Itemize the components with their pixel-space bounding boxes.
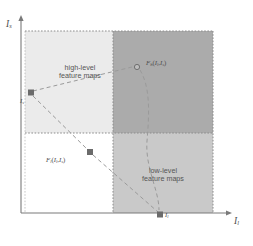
function-label-fh-arg2-sub: s [162,62,164,67]
marker-point-is [28,90,34,96]
feature-map-quadrant-diagram: Is Il high-level feature maps low-level … [0,0,253,246]
x-axis-label: Il [234,216,239,227]
region-label-low-level: low-level feature maps [127,167,199,184]
function-label-fl-arg2-sub: s [61,159,63,164]
function-label-fl: Fl(Il,Is) [46,156,65,164]
x-axis-arrowhead [226,210,232,215]
quadrant-top-right-fill [113,31,213,133]
region-label-high-level-line2: feature maps [44,72,116,80]
point-label-il-sub: l [167,214,168,219]
point-label-is-sub: s [22,100,24,105]
point-label-il: Il [165,211,168,219]
region-label-low-level-line2: feature maps [127,175,199,183]
function-label-fl-paren-close: ) [63,156,65,163]
quadrant-bottom-left-fill [25,133,113,213]
y-axis-arrowhead [18,15,23,21]
marker-point-fh [134,64,139,69]
diagram-canvas [0,0,253,246]
function-label-fh: Fh(Il,Is) [146,59,166,67]
marker-point-fl [87,149,93,155]
function-label-fh-paren-close: ) [164,59,166,66]
region-label-high-level: high-level feature maps [44,64,116,81]
marker-point-il [157,212,163,218]
point-label-is: Is [20,97,24,105]
y-axis-label: Is [6,19,12,30]
x-axis-label-sub: l [237,219,239,226]
y-axis-label-sub: s [9,22,12,29]
